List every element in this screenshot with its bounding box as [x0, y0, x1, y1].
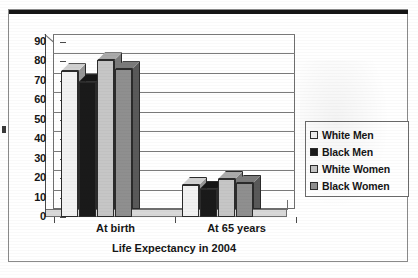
bar-at-birth-black-men — [79, 82, 96, 217]
bar-front-face — [115, 69, 132, 217]
x-axis-title: Life Expectancy in 2004 — [53, 242, 295, 254]
bar-at-65-years-black-men — [200, 189, 217, 217]
x-tick-mark-0 — [54, 217, 55, 223]
bar-front-face — [79, 82, 96, 217]
bar-front-face — [218, 179, 235, 217]
life-expectancy-bar-chart: 0102030405060708090 At birthAt 65 years … — [8, 14, 408, 262]
x-category-label-0: At birth — [56, 222, 176, 234]
legend-swatch-icon — [310, 148, 318, 156]
bar-at-65-years-white-men — [182, 185, 199, 217]
bar-at-65-years-black-women — [236, 183, 253, 217]
scan-left-margin-mark — [2, 126, 6, 133]
legend-swatch-icon — [310, 182, 318, 190]
x-tick-mark-end — [296, 217, 297, 223]
bar-at-birth-white-men — [61, 71, 78, 217]
legend-item-black-women[interactable]: Black Women — [310, 177, 405, 194]
x-tick-mark-1 — [175, 217, 176, 223]
legend-swatch-icon — [310, 165, 318, 173]
bar-side-face — [132, 61, 140, 209]
legend-item-label: Black Men — [322, 147, 373, 157]
bar-front-face — [182, 185, 199, 217]
legend-item-black-men[interactable]: Black Men — [310, 143, 405, 160]
x-category-label-1: At 65 years — [177, 222, 297, 234]
chart-legend: White MenBlack MenWhite WomenBlack Women — [305, 121, 409, 197]
bar-front-face — [236, 183, 253, 217]
bar-front-face — [61, 71, 78, 217]
legend-item-label: Black Women — [322, 181, 390, 191]
legend-swatch-icon — [310, 131, 318, 139]
bar-at-birth-black-women — [115, 69, 132, 217]
bar-front-face — [97, 60, 114, 217]
bar-front-face — [200, 189, 217, 217]
legend-item-label: White Women — [322, 164, 390, 174]
bar-at-65-years-white-women — [218, 179, 235, 217]
legend-item-white-women[interactable]: White Women — [310, 160, 405, 177]
bar-at-birth-white-women — [97, 60, 114, 217]
legend-item-label: White Men — [322, 130, 374, 140]
legend-item-white-men[interactable]: White Men — [310, 126, 405, 143]
